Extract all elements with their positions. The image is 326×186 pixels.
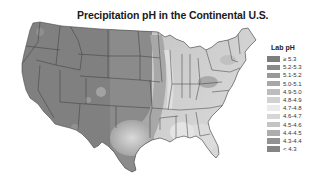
legend-swatch (267, 130, 280, 136)
legend-swatch (267, 89, 280, 95)
legend-item: ≥ 5.3 (267, 55, 326, 63)
legend-item: 4.8-4.9 (267, 96, 326, 104)
legend-label: ≥ 5.3 (283, 56, 296, 62)
legend-item: 5.0-5.1 (267, 80, 326, 88)
legend-swatch (267, 81, 280, 87)
legend-swatch (267, 73, 280, 79)
legend-label: < 4.3 (283, 146, 297, 152)
legend-item: 4.7-4.8 (267, 104, 326, 112)
legend-title: Lab pH (271, 44, 326, 51)
legend-label: 4.7-4.8 (283, 105, 302, 111)
legend-item: 4.9-5.0 (267, 88, 326, 96)
legend-swatch (267, 105, 280, 111)
legend-swatch (267, 146, 280, 152)
legend-swatch (267, 122, 280, 128)
us-precipitation-map (0, 20, 270, 186)
legend-item: 5.2-5.3 (267, 63, 326, 71)
legend-item: 5.1-5.2 (267, 71, 326, 79)
legend: Lab pH ≥ 5.35.2-5.35.1-5.25.0-5.14.9-5.0… (267, 44, 326, 153)
legend-label: 4.3-4.4 (283, 138, 302, 144)
legend-label: 4.4-4.5 (283, 130, 302, 136)
legend-swatch (267, 97, 280, 103)
legend-swatch (267, 114, 280, 120)
legend-label: 5.0-5.1 (283, 81, 302, 87)
legend-item: < 4.3 (267, 145, 326, 153)
legend-item: 4.6-4.7 (267, 112, 326, 120)
legend-label: 5.2-5.3 (283, 64, 302, 70)
legend-item: 4.4-4.5 (267, 129, 326, 137)
legend-label: 4.5-4.6 (283, 122, 302, 128)
legend-swatch (267, 65, 280, 71)
legend-label: 4.9-5.0 (283, 89, 302, 95)
legend-label: 5.1-5.2 (283, 72, 302, 78)
legend-item: 4.3-4.4 (267, 137, 326, 145)
legend-swatch (267, 56, 280, 62)
legend-label: 4.8-4.9 (283, 97, 302, 103)
legend-label: 4.6-4.7 (283, 113, 302, 119)
legend-item: 4.5-4.6 (267, 121, 326, 129)
legend-swatch (267, 138, 280, 144)
